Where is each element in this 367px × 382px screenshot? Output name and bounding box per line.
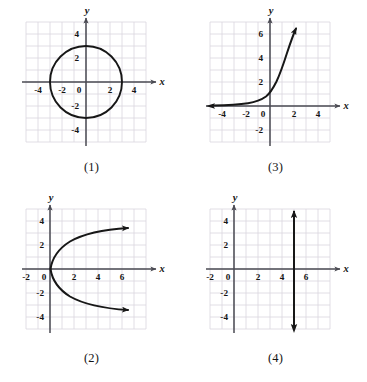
x-tick-label: -2 xyxy=(206,272,214,282)
y-tick-label: -2 xyxy=(220,288,228,298)
graph-panel-3: -4 -2 0 2 4 6 4 2 -2 x y (3) xyxy=(184,0,367,191)
x-axis-label: x xyxy=(342,100,348,111)
x-tick-label: 6 xyxy=(304,272,309,282)
coordinate-plane-4: -2 0 2 4 6 4 2 -2 -4 x y xyxy=(184,191,367,356)
x-axis-label: x xyxy=(158,76,164,87)
x-tick-label: 4 xyxy=(96,272,101,282)
y-tick-label: 2 xyxy=(39,240,44,250)
y-tick-label: 4 xyxy=(258,53,263,63)
y-tick-label: 4 xyxy=(74,29,79,39)
graph-panel-4: -2 0 2 4 6 4 2 -2 -4 x y (4) xyxy=(184,191,367,382)
y-tick-label: 4 xyxy=(223,216,228,226)
x-axis-label: x xyxy=(342,263,348,274)
x-tick-label: 2 xyxy=(108,85,113,95)
coordinate-plane-1: -4 -2 0 2 4 4 2 -2 -4 x y xyxy=(0,0,183,165)
plot-area-3: -4 -2 0 2 4 6 4 2 -2 x y xyxy=(184,0,367,165)
panel-caption-4: (4) xyxy=(184,351,367,366)
x-tick-label: 0 xyxy=(42,272,47,282)
graph-panel-1: -4 -2 0 2 4 4 2 -2 -4 x y (1) xyxy=(0,0,183,191)
x-tick-label: 0 xyxy=(261,109,266,119)
panel-caption-1: (1) xyxy=(0,160,183,175)
x-tick-label: 4 xyxy=(316,109,321,119)
x-axis-label: x xyxy=(158,263,164,274)
x-tick-label: 2 xyxy=(256,272,261,282)
y-axis-label: y xyxy=(267,5,274,16)
panel-caption-2: (2) xyxy=(0,351,183,366)
y-tick-label: -2 xyxy=(255,125,263,135)
x-tick-label: -4 xyxy=(218,109,226,119)
coordinate-plane-3: -4 -2 0 2 4 6 4 2 -2 x y xyxy=(184,0,367,165)
y-axis-label: y xyxy=(47,192,54,203)
y-tick-label: -4 xyxy=(220,312,228,322)
x-tick-label: 0 xyxy=(77,85,82,95)
x-tick-label: 2 xyxy=(72,272,77,282)
plot-area-1: -4 -2 0 2 4 4 2 -2 -4 x y xyxy=(0,0,183,165)
y-tick-label: -4 xyxy=(36,312,44,322)
x-tick-label: 0 xyxy=(226,272,231,282)
y-axis-label: y xyxy=(231,192,238,203)
y-tick-label: 2 xyxy=(258,77,263,87)
x-tick-label: 6 xyxy=(120,272,125,282)
plot-area-4: -2 0 2 4 6 4 2 -2 -4 x y xyxy=(184,191,367,356)
graph-panel-2: -2 0 2 4 6 4 2 -2 -4 x y (2) xyxy=(0,191,183,382)
y-tick-label: 6 xyxy=(258,29,263,39)
x-tick-label: -2 xyxy=(22,272,30,282)
x-tick-label: 2 xyxy=(292,109,297,119)
y-tick-label: -2 xyxy=(71,101,79,111)
x-tick-label: 4 xyxy=(132,85,137,95)
x-tick-label: 4 xyxy=(280,272,285,282)
panel-caption-3: (3) xyxy=(184,160,367,175)
y-tick-label: 2 xyxy=(74,53,79,63)
plot-area-2: -2 0 2 4 6 4 2 -2 -4 x y xyxy=(0,191,183,356)
graph-figure: -4 -2 0 2 4 4 2 -2 -4 x y (1) xyxy=(0,0,367,382)
y-tick-label: -4 xyxy=(71,125,79,135)
coordinate-plane-2: -2 0 2 4 6 4 2 -2 -4 x y xyxy=(0,191,183,356)
x-tick-label: -2 xyxy=(58,85,66,95)
y-tick-label: 2 xyxy=(223,240,228,250)
x-tick-label: -2 xyxy=(242,109,250,119)
y-tick-label: 4 xyxy=(39,216,44,226)
y-axis-label: y xyxy=(83,5,90,16)
y-tick-label: -2 xyxy=(36,288,44,298)
x-tick-label: -4 xyxy=(34,85,42,95)
